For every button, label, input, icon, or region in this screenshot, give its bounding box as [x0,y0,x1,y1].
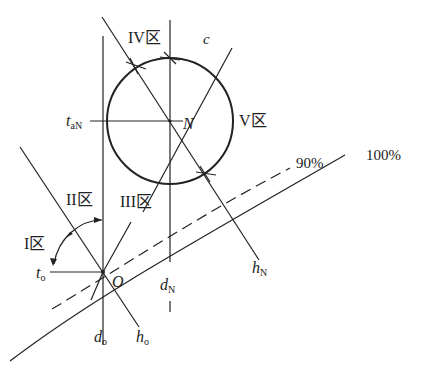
point-N-marker [168,119,171,122]
label-d-N: dN [160,276,175,295]
label-t-aN: taN [66,112,82,131]
line-o-short [91,272,103,300]
zone3-label: III区 [120,193,152,210]
point-c-label: c [203,31,210,47]
label-h-N: hN [252,259,267,278]
curve-100 [10,155,345,361]
zone5-label: V区 [239,112,267,129]
zone2-label: II区 [66,191,93,208]
point-N-label: N [182,115,195,132]
label-t-o: to [36,264,45,283]
curve-100-label: 100% [366,147,401,163]
arrow-head-down [50,258,57,266]
arrow-mid [65,232,73,238]
label-h-o: ho [136,328,149,347]
curve-90-label: 90% [296,155,324,171]
point-O-marker [101,270,105,274]
point-O-label: O [112,273,124,290]
process-diagram: IV区 V区 II区 III区 I区 N c O taN to dN do ho… [0,0,421,375]
circle-ticks [126,52,216,182]
arrow-head-up [94,217,102,223]
line-zone3 [103,222,131,272]
zone1-label: I区 [24,235,45,252]
zone4-label: IV区 [128,29,161,46]
label-d-o: do [94,328,107,347]
rotation-arc [54,220,102,264]
line-h-N [102,17,259,260]
